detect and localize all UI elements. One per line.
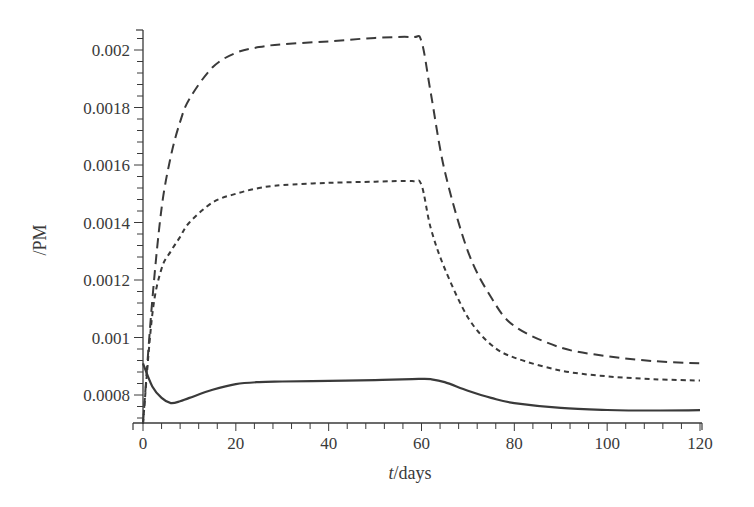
x-tick-label: 0 [139,434,148,453]
series-short-dashed-line [143,180,700,423]
y-tick-label: 0.001 [92,329,130,348]
tick-labels: 0.00080.0010.00120.00140.00160.00180.002… [83,41,713,453]
x-tick-label: 100 [594,434,620,453]
series-solid-line [143,363,700,410]
x-tick-label: 20 [227,434,244,453]
x-axis-label-unit: /days [394,463,432,483]
y-tick-label: 0.0014 [83,214,130,233]
x-tick-label: 120 [687,434,713,453]
x-tick-label: 60 [413,434,430,453]
y-tick-label: 0.0016 [83,156,130,175]
ticks [134,39,700,432]
axes [133,30,702,430]
series-long-dashed-line [143,36,700,424]
series-group [143,36,700,424]
y-axis-label: /PM [30,224,50,255]
chart: 0.00080.0010.00120.00140.00160.00180.002… [0,0,754,507]
y-tick-label: 0.0012 [83,271,130,290]
y-tick-label: 0.0008 [83,386,130,405]
y-tick-label: 0.002 [92,41,130,60]
y-tick-label: 0.0018 [83,99,130,118]
x-tick-label: 80 [506,434,523,453]
x-axis-label: t/days [388,463,431,483]
x-tick-label: 40 [320,434,337,453]
